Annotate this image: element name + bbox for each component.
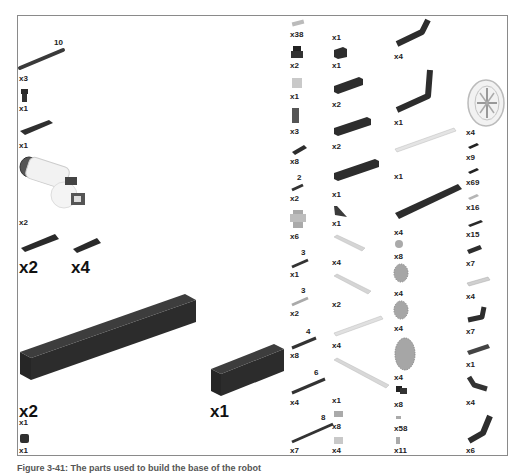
- brick-1x10-graphic: [333, 158, 381, 184]
- axle-4-graphic: [291, 336, 319, 350]
- qty-label: x2: [19, 218, 28, 227]
- axle-length-label: 4: [306, 327, 310, 336]
- axle-length-label: 8: [321, 413, 325, 422]
- qty-label: x1: [19, 446, 28, 455]
- qty-label: x2: [290, 309, 299, 318]
- beam-5-dark-graphic: [466, 343, 492, 357]
- axle-pin-short-graphic: [395, 437, 403, 445]
- figure-caption: Figure 3-41: The parts used to build the…: [17, 463, 261, 473]
- qty-label: x2: [290, 194, 299, 203]
- qty-label: x2: [332, 300, 341, 309]
- axle-pin-long-graphic: [467, 219, 485, 228]
- brick-1x8-graphic: [333, 116, 373, 138]
- qty-label: x1: [332, 219, 341, 228]
- qty-label: x6: [290, 232, 299, 241]
- bush-graphic: [291, 19, 305, 27]
- bush-light-graphic: [291, 77, 305, 91]
- qty-label: x1: [19, 418, 28, 427]
- rack-graphic: [333, 315, 385, 337]
- gear-24b-graphic: [394, 301, 410, 321]
- axle-3-graphic: [291, 259, 311, 269]
- pin-joiner-graphic: [333, 410, 345, 420]
- pin-graphic: [71, 235, 105, 255]
- qty-label: x1: [332, 396, 341, 405]
- qty-label-large: x2: [19, 258, 38, 278]
- qty-label: x6: [466, 446, 475, 455]
- qty-label: x4: [394, 228, 403, 237]
- wheel-graphic: [466, 79, 506, 129]
- brick-1x16-graphic: [19, 290, 199, 390]
- axle-pin-graphic: [19, 89, 31, 103]
- qty-label: x8: [290, 157, 299, 166]
- pin-black-graphic: [467, 142, 481, 150]
- bush-half-graphic: [395, 415, 403, 421]
- angled-beam-c-graphic: [466, 413, 494, 445]
- brick-1x6-graphic: [210, 343, 290, 403]
- brick-1x2-graphic: [333, 46, 349, 60]
- qty-label: x8: [290, 351, 299, 360]
- gear-small-graphic: [395, 240, 405, 250]
- qty-label: x7: [290, 446, 299, 455]
- qty-label: x1: [290, 92, 299, 101]
- brick-round-graphic: [19, 433, 31, 445]
- qty-label: x4: [394, 289, 403, 298]
- axle-length-label: 2: [297, 173, 301, 182]
- qty-label: x1: [19, 141, 28, 150]
- qty-label: x4: [394, 324, 403, 333]
- qty-label: x3: [19, 74, 28, 83]
- qty-label: x7: [466, 327, 475, 336]
- wedge-graphic: [333, 205, 349, 219]
- angled-beam-b-graphic: [394, 66, 438, 114]
- axle-3-light-graphic: [291, 297, 311, 307]
- qty-label: x11: [394, 446, 407, 455]
- qty-label: x16: [466, 203, 479, 212]
- l-beam-b-graphic: [466, 375, 490, 395]
- brick-1x6-graphic: [333, 76, 365, 96]
- qty-label: x38: [290, 30, 303, 39]
- plate-2x4-graphic: [291, 144, 309, 156]
- beam-3-graphic: [466, 244, 484, 256]
- pin-bush-graphic: [395, 385, 409, 397]
- long-pin-graphic: [19, 232, 61, 254]
- beam-9-graphic: [333, 234, 367, 254]
- qty-label-large: x4: [71, 258, 90, 278]
- qty-label: x1: [290, 270, 299, 279]
- qty-label: x4: [394, 373, 403, 382]
- cross-block-graphic: [289, 208, 309, 230]
- qty-label: x4: [394, 52, 403, 61]
- pin-black-friction-graphic: [467, 167, 481, 175]
- qty-label: x9: [466, 153, 475, 162]
- qty-label: x4: [290, 398, 299, 407]
- qty-label: x4: [466, 128, 475, 137]
- gear-24-graphic: [394, 264, 410, 284]
- axle-10-graphic: [18, 40, 78, 70]
- qty-label: x2: [332, 100, 341, 109]
- axle-length-label: 3: [301, 286, 305, 295]
- qty-label: x1: [394, 172, 403, 181]
- axle-8-graphic: [291, 422, 335, 444]
- qty-label-large: x1: [210, 402, 229, 422]
- qty-label: x1: [466, 360, 475, 369]
- qty-label: x4: [332, 341, 341, 350]
- gear-40-graphic: [394, 338, 418, 372]
- qty-label: x4: [466, 292, 475, 301]
- axle-2-graphic: [291, 184, 305, 192]
- qty-label: x15: [466, 230, 479, 239]
- qty-label: x2: [332, 142, 341, 151]
- axle-length-label: 10: [54, 38, 63, 47]
- qty-label: x4: [332, 258, 341, 267]
- qty-label: x1: [332, 61, 341, 70]
- tall-brick-graphic: [291, 108, 301, 124]
- qty-label: x8: [394, 252, 403, 261]
- beam-11-graphic: [333, 273, 373, 297]
- qty-label: x3: [290, 127, 299, 136]
- qty-label: x58: [394, 424, 407, 433]
- pin-light-graphic: [467, 193, 481, 201]
- qty-label: x69: [466, 178, 479, 187]
- qty-label: x8: [332, 422, 341, 431]
- qty-label: x4: [332, 446, 341, 455]
- qty-label: x1: [394, 118, 403, 127]
- axle-length-label: 3: [301, 248, 305, 257]
- qty-label: x4: [466, 398, 475, 407]
- qty-label: x1: [332, 190, 341, 199]
